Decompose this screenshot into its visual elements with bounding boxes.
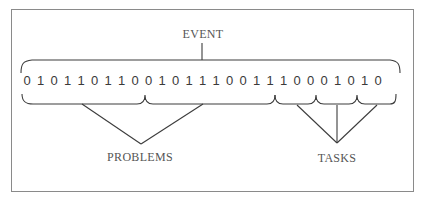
problems-brace bbox=[22, 94, 275, 104]
bit: 0 bbox=[131, 73, 138, 88]
bit: 0 bbox=[226, 73, 233, 88]
bit: 1 bbox=[253, 73, 260, 88]
bit: 1 bbox=[199, 73, 206, 88]
bit: 0 bbox=[91, 73, 98, 88]
bit: 1 bbox=[158, 73, 165, 88]
bit: 0 bbox=[320, 73, 327, 88]
bit: 1 bbox=[37, 73, 44, 88]
event-problems-tasks-diagram: EVENT 010110110010111001110001010 PROBLE… bbox=[0, 0, 423, 206]
bit: 0 bbox=[145, 73, 152, 88]
event-label: EVENT bbox=[183, 27, 224, 41]
bit: 1 bbox=[361, 73, 368, 88]
bit: 1 bbox=[280, 73, 287, 88]
bit: 1 bbox=[212, 73, 219, 88]
bit: 0 bbox=[50, 73, 57, 88]
bit: 0 bbox=[374, 73, 381, 88]
problems-connector-left bbox=[82, 104, 141, 144]
bit: 0 bbox=[293, 73, 300, 88]
bit-sequence: 010110110010111001110001010 bbox=[23, 73, 381, 88]
bit: 0 bbox=[172, 73, 179, 88]
bit: 1 bbox=[185, 73, 192, 88]
event-brace bbox=[21, 60, 400, 73]
bit: 0 bbox=[239, 73, 246, 88]
tasks-connector-right bbox=[337, 105, 377, 143]
bit: 1 bbox=[266, 73, 273, 88]
bit: 0 bbox=[23, 73, 30, 88]
tasks-brace bbox=[275, 94, 396, 104]
bit: 0 bbox=[307, 73, 314, 88]
problems-label: PROBLEMS bbox=[107, 150, 173, 164]
bit: 0 bbox=[347, 73, 354, 88]
diagram-canvas: EVENT 010110110010111001110001010 PROBLE… bbox=[0, 0, 423, 206]
problems-connector-right bbox=[141, 104, 203, 144]
bit: 1 bbox=[77, 73, 84, 88]
bit: 1 bbox=[64, 73, 71, 88]
tasks-connector-left bbox=[297, 105, 337, 143]
tasks-label: TASKS bbox=[318, 151, 357, 165]
bit: 1 bbox=[104, 73, 111, 88]
bit: 1 bbox=[334, 73, 341, 88]
bit: 1 bbox=[118, 73, 125, 88]
